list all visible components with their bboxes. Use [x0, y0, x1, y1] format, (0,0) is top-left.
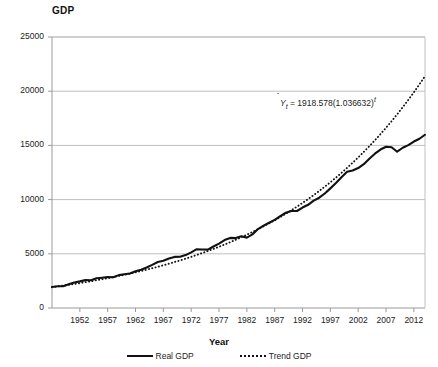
- gdp-trend-chart: GDP Ŷt = 1918.578(1.036632)t Year Real …: [0, 0, 438, 367]
- legend-swatch-solid-icon: [127, 355, 153, 357]
- trend-equation-annotation: Ŷt = 1918.578(1.036632)t: [280, 96, 376, 110]
- y-tick-label: 0: [0, 302, 44, 312]
- y-tick-label: 25000: [0, 31, 44, 41]
- y-axis-title: GDP: [52, 5, 74, 16]
- legend-entry-real-gdp: Real GDP: [127, 351, 194, 361]
- x-axis-title: Year: [0, 336, 438, 347]
- series-line-real-gdp: [52, 135, 425, 287]
- y-tick-label: 20000: [0, 85, 44, 95]
- plot-area: [0, 0, 438, 367]
- chart-legend: Real GDP Trend GDP: [0, 351, 438, 361]
- y-tick-label: 15000: [0, 139, 44, 149]
- y-tick-label: 10000: [0, 194, 44, 204]
- legend-label-trend-gdp: Trend GDP: [269, 351, 312, 361]
- x-tick-label: 2012: [397, 315, 431, 325]
- legend-label-real-gdp: Real GDP: [156, 351, 194, 361]
- legend-swatch-dotted-icon: [240, 355, 266, 357]
- y-tick-label: 5000: [0, 248, 44, 258]
- legend-entry-trend-gdp: Trend GDP: [240, 351, 312, 361]
